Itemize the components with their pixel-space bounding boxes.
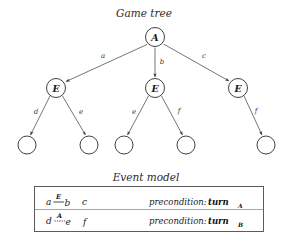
event-row-extra-event: c [82, 197, 87, 207]
event-row-right-event: b [65, 198, 71, 208]
relation-agent-label: E [55, 193, 62, 201]
event-row-left-event: d [46, 216, 52, 226]
event-row-left-event: a [46, 197, 51, 207]
event-model-diagram: Event model a E b c precondition: turn A… [0, 0, 288, 241]
precondition-term: turn [208, 216, 229, 226]
relation-agent-label: A [56, 212, 62, 220]
precondition-label: precondition: [149, 197, 207, 207]
figure-container: Game tree a b c d e e f f [0, 0, 288, 241]
event-model-caption: Event model [112, 171, 180, 183]
precondition-subscript: B [237, 221, 243, 228]
event-row-right-event: e [66, 217, 71, 227]
precondition-term: turn [208, 197, 229, 207]
precondition-label: precondition: [149, 216, 207, 226]
precondition-subscript: A [237, 202, 243, 209]
